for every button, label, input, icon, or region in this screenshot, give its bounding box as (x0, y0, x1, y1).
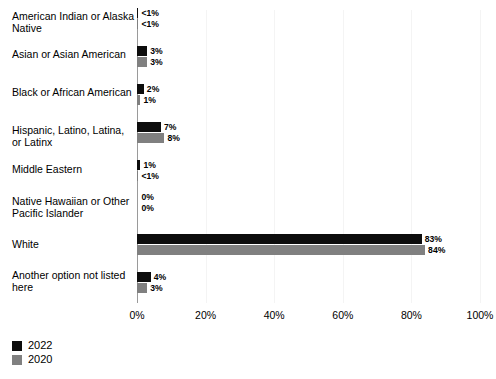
data-label-2020: 8% (167, 134, 179, 143)
gridline-80 (411, 10, 412, 303)
bar-2020 (137, 171, 138, 181)
bar-2022 (137, 272, 151, 282)
bar-2020 (137, 203, 139, 213)
data-label-2022: <1% (142, 9, 159, 18)
data-label-2020: <1% (142, 172, 159, 181)
category-label: Hispanic, Latino, Latina, or Latinx (12, 124, 136, 149)
plot-area (137, 0, 480, 303)
race-ethnicity-bar-chart: American Indian or Alaska Native<1%<1%As… (0, 0, 496, 379)
legend-swatch-icon (12, 341, 22, 351)
bar-2020 (137, 283, 147, 293)
gridline-100 (480, 10, 481, 303)
data-label-2022: 3% (150, 47, 162, 56)
data-label-2022: 0% (142, 193, 154, 202)
data-label-2022: 2% (147, 85, 159, 94)
bar-2020 (137, 245, 425, 255)
category-label: Another option not listed here (12, 269, 136, 294)
category-label: Asian or Asian American (12, 48, 136, 60)
legend-label: 2020 (28, 353, 52, 366)
data-label-2020: 84% (428, 246, 445, 255)
bar-2020 (137, 57, 147, 67)
x-tick-label: 60% (332, 309, 353, 321)
gridline-60 (343, 10, 344, 303)
bar-2022 (137, 84, 144, 94)
gridline-40 (274, 10, 275, 303)
bar-2020 (137, 19, 138, 29)
data-label-2020: 1% (143, 96, 155, 105)
bar-2020 (137, 95, 140, 105)
legend-swatch-icon (12, 355, 22, 365)
data-label-2022: 7% (164, 123, 176, 132)
data-label-2020: 3% (150, 284, 162, 293)
bar-2020 (137, 133, 164, 143)
x-tick-label: 80% (401, 309, 422, 321)
category-label: Middle Eastern (12, 163, 136, 175)
data-label-2020: 0% (142, 204, 154, 213)
gridline-20 (206, 10, 207, 303)
category-label: Native Hawaiian or Other Pacific Islande… (12, 195, 136, 220)
x-tick-label: 100% (467, 309, 494, 321)
data-label-2020: 3% (150, 58, 162, 67)
data-label-2022: 1% (143, 161, 155, 170)
x-tick-label: 20% (195, 309, 216, 321)
x-tick-label: 0% (129, 309, 144, 321)
bar-2022 (137, 46, 147, 56)
category-label: White (12, 238, 136, 250)
data-label-2022: 83% (425, 235, 442, 244)
bar-2022 (137, 192, 139, 202)
bar-2022 (137, 122, 161, 132)
legend-label: 2022 (28, 339, 52, 352)
data-label-2022: 4% (154, 273, 166, 282)
bar-2022 (137, 160, 140, 170)
bar-2022 (137, 8, 138, 18)
category-label: Black or African American (12, 86, 136, 98)
category-label: American Indian or Alaska Native (12, 10, 136, 35)
bar-2022 (137, 234, 422, 244)
x-tick-label: 40% (264, 309, 285, 321)
data-label-2020: <1% (142, 20, 159, 29)
